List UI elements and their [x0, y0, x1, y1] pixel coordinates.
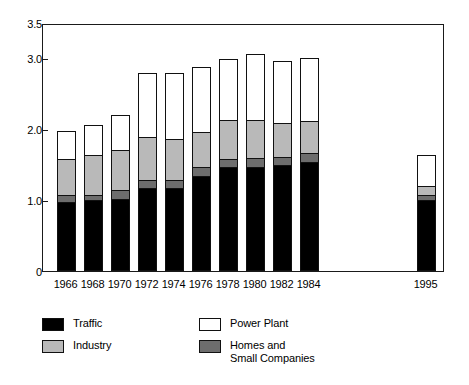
bar-1966[interactable] [57, 131, 76, 271]
x-tick-label-1995: 1995 [404, 278, 448, 290]
bar-segment-industry [418, 186, 435, 196]
bar-segment-traffic [112, 199, 129, 270]
bar-segment-industry [193, 132, 210, 167]
bar-segment-industry [301, 121, 318, 153]
legend-item-power-plant[interactable]: Power Plant [199, 317, 288, 331]
bar-segment-power-plant [418, 156, 435, 186]
bar-segment-traffic [274, 165, 291, 270]
bar-segment-homes-and-small-companies [220, 159, 237, 167]
legend-label-power-plant: Power Plant [230, 317, 288, 330]
legend-swatch-power-plant-icon [199, 318, 221, 331]
bar-segment-homes-and-small-companies [139, 180, 156, 188]
bar-segment-industry [166, 139, 183, 180]
bar-segment-traffic [166, 188, 183, 270]
bar-segment-homes-and-small-companies [274, 157, 291, 165]
bar-segment-industry [220, 120, 237, 159]
stacked-bar-chart: 01.02.03.03.5 19661968197019721974197619… [0, 0, 469, 385]
bar-segment-homes-and-small-companies [112, 190, 129, 199]
legend-item-traffic[interactable]: Traffic [42, 317, 102, 331]
cropped-title-fragment [0, 0, 469, 5]
bar-segment-industry [247, 120, 264, 158]
y-tick-mark [42, 59, 48, 60]
bar-segment-power-plant [139, 74, 156, 138]
bar-segment-traffic [193, 176, 210, 270]
bar-1982[interactable] [273, 61, 292, 271]
bar-segment-power-plant [193, 68, 210, 132]
legend-item-homes-small-companies[interactable]: Homes and Small Companies [199, 339, 315, 364]
bar-1972[interactable] [138, 73, 157, 271]
bar-segment-homes-and-small-companies [166, 180, 183, 188]
legend-swatch-industry-icon [42, 340, 64, 353]
bar-segment-power-plant [274, 62, 291, 123]
legend-label-homes-small-companies: Homes and Small Companies [230, 339, 315, 364]
bar-1995[interactable] [417, 155, 436, 271]
y-tick-label: 3.5 [10, 19, 42, 30]
bar-segment-traffic [58, 202, 75, 270]
bar-segment-power-plant [220, 60, 237, 120]
bar-segment-homes-and-small-companies [247, 158, 264, 166]
bar-segment-power-plant [247, 55, 264, 120]
bar-segment-traffic [418, 200, 435, 270]
bar-segment-power-plant [58, 132, 75, 159]
y-tick-mark [42, 130, 48, 131]
y-tick-label: 0 [10, 267, 42, 278]
bar-segment-traffic [220, 167, 237, 270]
y-axis: 01.02.03.03.5 [0, 0, 42, 385]
bar-segment-industry [274, 123, 291, 157]
legend-label-traffic: Traffic [73, 317, 102, 330]
y-tick-mark [42, 201, 48, 202]
bar-segment-homes-and-small-companies [193, 167, 210, 176]
y-tick-label: 1.0 [10, 196, 42, 207]
y-tick-label: 3.0 [10, 54, 42, 65]
bar-segment-traffic [139, 188, 156, 270]
bar-1970[interactable] [111, 115, 130, 271]
legend-item-industry[interactable]: Industry [42, 339, 111, 353]
bar-1980[interactable] [246, 54, 265, 271]
bar-segment-power-plant [112, 116, 129, 150]
bar-segment-power-plant [166, 74, 183, 139]
bar-1984[interactable] [300, 58, 319, 271]
x-tick-label-1984: 1984 [287, 278, 331, 290]
bar-segment-power-plant [301, 59, 318, 121]
bar-1974[interactable] [165, 73, 184, 271]
bar-segment-industry [58, 159, 75, 195]
bar-1968[interactable] [84, 125, 103, 271]
chart-legend: Traffic Industry Power Plant Homes and S… [42, 317, 442, 377]
legend-label-industry: Industry [73, 339, 111, 352]
bar-segment-industry [112, 150, 129, 191]
plot-area [42, 24, 444, 272]
bar-1976[interactable] [192, 67, 211, 271]
bar-segment-industry [139, 137, 156, 180]
bar-segment-homes-and-small-companies [58, 195, 75, 202]
bar-segment-traffic [247, 167, 264, 270]
bar-segment-traffic [85, 200, 102, 270]
bar-segment-industry [85, 155, 102, 195]
bar-segment-power-plant [85, 126, 102, 155]
y-tick-label: 2.0 [10, 125, 42, 136]
bar-segment-homes-and-small-companies [301, 153, 318, 161]
legend-swatch-homes-icon [199, 340, 221, 353]
bar-segment-traffic [301, 162, 318, 270]
legend-swatch-traffic-icon [42, 318, 64, 331]
bar-1978[interactable] [219, 59, 238, 271]
